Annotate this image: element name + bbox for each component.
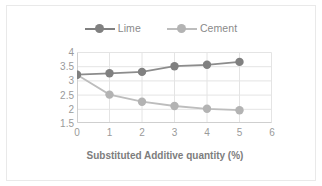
chart-figure: Lime Cement Flow Value (mm) 4 3.5 3 2.5 … <box>0 0 322 186</box>
x-axis-title: Substituted Additive quantity (%) <box>40 150 290 161</box>
x-tick-label: 4 <box>197 127 217 138</box>
x-tick-label: 3 <box>165 127 185 138</box>
x-axis-ticks: 0 1 2 3 4 5 6 <box>0 127 322 141</box>
y-tick-label: 2.5 <box>48 89 74 100</box>
x-tick-label: 2 <box>132 127 152 138</box>
series-lime <box>77 58 244 79</box>
legend-item-cement[interactable]: Cement <box>167 22 237 34</box>
legend-dot-lime <box>95 24 104 33</box>
x-tick-label: 6 <box>262 127 282 138</box>
x-tick-label: 1 <box>100 127 120 138</box>
x-tick-label: 5 <box>230 127 250 138</box>
y-tick-label: 3 <box>48 75 74 86</box>
x-tick-label: 0 <box>67 127 87 138</box>
legend-marker-cement <box>167 23 197 34</box>
series-plot <box>77 52 272 123</box>
plot-area <box>77 52 272 123</box>
data-points-cement <box>77 71 244 115</box>
legend-marker-lime <box>85 23 115 34</box>
series-cement <box>77 71 244 115</box>
legend-label-lime: Lime <box>118 22 141 34</box>
y-tick-label: 2 <box>48 103 74 114</box>
y-tick-label: 4 <box>48 47 74 58</box>
legend-item-lime[interactable]: Lime <box>85 22 141 34</box>
legend-dot-cement <box>177 24 186 33</box>
legend-label-cement: Cement <box>200 22 237 34</box>
y-tick-label: 3.5 <box>48 61 74 72</box>
